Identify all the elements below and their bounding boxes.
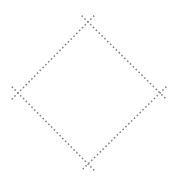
diamond-diagram <box>0 0 178 180</box>
edge-left-top <box>12 16 95 100</box>
diamond-edges <box>12 16 167 171</box>
edge-top-right <box>82 16 167 100</box>
edge-right-bottom <box>82 87 167 171</box>
edge-bottom-left <box>12 87 95 171</box>
